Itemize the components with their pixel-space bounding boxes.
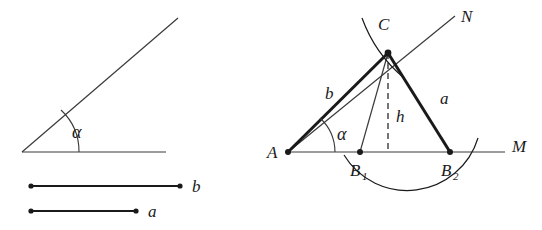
label-M: M bbox=[511, 137, 527, 156]
label-side-b: b bbox=[325, 84, 334, 103]
label-A: A bbox=[266, 143, 278, 162]
label-altitude-h: h bbox=[396, 107, 405, 126]
point-B1-dot bbox=[357, 149, 363, 155]
given-segment-a-label: a bbox=[148, 202, 157, 221]
label-angle-alpha: α bbox=[337, 124, 347, 144]
label-B1-letter: B bbox=[350, 161, 361, 180]
given-angle-label: α bbox=[72, 122, 82, 142]
label-B1-subscript: 1 bbox=[362, 170, 368, 182]
label-B1: B 1 bbox=[350, 161, 368, 182]
geometry-figure: α b a bbox=[0, 0, 542, 230]
point-C-dot bbox=[385, 50, 392, 57]
ray-AN bbox=[288, 16, 455, 152]
label-B2: B 2 bbox=[441, 161, 459, 182]
given-segment-b-endpoint-right bbox=[177, 183, 182, 188]
figure-canvas: α b a bbox=[0, 0, 542, 230]
given-data-panel: α b a bbox=[22, 18, 201, 221]
point-A-dot bbox=[285, 149, 291, 155]
angle-alpha-arc bbox=[320, 118, 335, 152]
given-angle-slanted-ray bbox=[22, 18, 178, 152]
construction-panel: A C N M B 1 B 2 b a h α bbox=[266, 7, 527, 190]
given-segment-a-endpoint-right bbox=[133, 208, 138, 213]
point-B2-dot bbox=[447, 149, 453, 155]
label-side-a: a bbox=[440, 89, 449, 108]
label-B2-letter: B bbox=[441, 161, 452, 180]
given-segment-b-endpoint-left bbox=[28, 183, 33, 188]
arc-radius-a-from-C bbox=[344, 138, 478, 190]
label-C: C bbox=[378, 15, 390, 34]
given-segment-b-label: b bbox=[192, 177, 201, 196]
label-B2-subscript: 2 bbox=[453, 170, 459, 182]
given-segment-a-endpoint-left bbox=[28, 208, 33, 213]
label-N: N bbox=[460, 7, 474, 26]
